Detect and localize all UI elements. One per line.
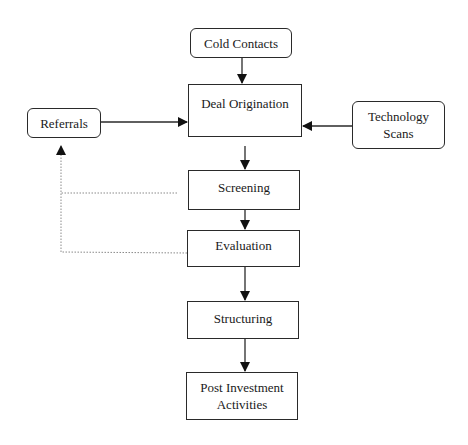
- edge-evaluation-feedback: [61, 252, 187, 253]
- node-label: Cold Contacts: [204, 35, 278, 52]
- node-screening: Screening: [188, 170, 300, 210]
- node-referrals: Referrals: [27, 108, 101, 138]
- node-label: Evaluation: [215, 237, 271, 254]
- deal-flow-diagram: Cold Contacts Referrals Technology Scans…: [0, 0, 468, 445]
- node-cold-contacts: Cold Contacts: [190, 28, 292, 58]
- node-evaluation: Evaluation: [187, 230, 300, 267]
- node-label: Structuring: [214, 310, 273, 327]
- node-structuring: Structuring: [187, 301, 299, 339]
- node-label: Post Investment Activities: [200, 379, 283, 413]
- node-label: Referrals: [40, 115, 88, 132]
- node-label: Screening: [218, 179, 270, 196]
- node-post-investment-activities: Post Investment Activities: [186, 372, 298, 420]
- arrowhead-up-icon: [56, 145, 66, 155]
- node-label: Deal Origination: [201, 95, 289, 112]
- node-deal-origination: Deal Origination: [188, 84, 302, 137]
- node-technology-scans: Technology Scans: [352, 101, 445, 149]
- node-label: Technology Scans: [368, 108, 429, 142]
